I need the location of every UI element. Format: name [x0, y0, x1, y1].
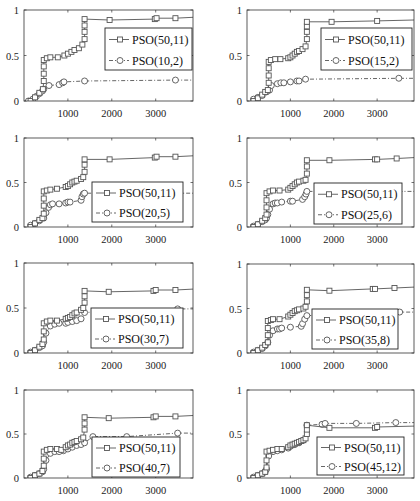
square-marker-icon [41, 196, 46, 201]
chart-panel-1: 10002000300000.51PSO(50,11)PSO(10,2) [6, 5, 193, 119]
legend-label: PSO(15,2) [348, 54, 399, 68]
y-tick-label: 0.5 [229, 304, 242, 315]
square-marker-icon [273, 57, 278, 62]
square-marker-icon [330, 445, 335, 450]
y-tick-label: 1 [237, 133, 242, 144]
square-marker-icon [304, 293, 309, 298]
circle-marker-icon [61, 79, 67, 85]
square-marker-icon [304, 423, 309, 428]
square-marker-icon [41, 211, 46, 216]
chart-panel-4: 10002000300000.51PSO(50,11)PSO(25,6) [229, 133, 414, 245]
chart-panel-5: 10002000300000.51PSO(50,11)PSO(30,7) [6, 258, 193, 371]
square-marker-icon [41, 203, 46, 208]
square-marker-icon [40, 87, 45, 92]
square-marker-icon [277, 188, 282, 193]
x-tick-label: 1000 [57, 108, 78, 119]
legend-label: PSO(40,7) [119, 461, 170, 475]
square-marker-icon [372, 286, 377, 291]
square-marker-icon [375, 18, 380, 23]
x-tick-label: 1000 [57, 485, 78, 496]
x-tick-label: 3000 [367, 360, 388, 371]
square-marker-icon [41, 78, 46, 83]
y-tick-label: 0 [14, 348, 19, 359]
y-tick-label: 1 [14, 258, 19, 269]
legend: PSO(50,11)PSO(15,2) [321, 28, 412, 70]
x-tick-label: 3000 [145, 234, 166, 245]
circle-marker-icon [175, 430, 181, 436]
y-tick-label: 0 [14, 222, 19, 233]
legend-label: PSO(50,11) [118, 312, 175, 326]
square-marker-icon [154, 154, 159, 159]
square-marker-icon [107, 18, 112, 23]
y-tick-label: 1 [14, 133, 19, 144]
square-marker-icon [266, 66, 271, 71]
circle-marker-icon [396, 75, 402, 81]
square-marker-icon [106, 289, 111, 294]
circle-marker-icon [103, 336, 109, 342]
y-tick-label: 0.5 [6, 303, 19, 314]
square-marker-icon [82, 300, 87, 305]
legend: PSO(50,11)PSO(35,8) [312, 309, 398, 349]
square-marker-icon [266, 80, 271, 85]
y-tick-label: 1 [237, 259, 242, 270]
x-tick-label: 3000 [367, 234, 388, 245]
square-marker-icon [304, 164, 309, 169]
circle-marker-icon [324, 337, 330, 343]
square-marker-icon [266, 73, 271, 78]
x-tick-label: 2000 [323, 360, 344, 371]
legend-label: PSO(50,11) [119, 441, 176, 455]
chart-panel-8: 10002000300000.51PSO(50,11)PSO(45,12) [229, 385, 414, 496]
square-marker-icon [265, 326, 270, 331]
y-tick-label: 1 [14, 5, 19, 16]
legend-label: PSO(10,2) [132, 54, 183, 68]
y-tick-label: 0.5 [6, 51, 19, 62]
square-marker-icon [41, 337, 46, 342]
square-marker-icon [271, 317, 276, 322]
square-marker-icon [334, 37, 339, 42]
circle-marker-icon [78, 316, 84, 322]
square-marker-icon [104, 317, 109, 322]
square-marker-icon [82, 169, 87, 174]
x-tick-label: 3000 [367, 485, 388, 496]
x-tick-label: 1000 [280, 108, 301, 119]
circle-marker-icon [333, 58, 339, 64]
square-marker-icon [82, 29, 87, 34]
square-marker-icon [304, 287, 309, 292]
square-marker-icon [279, 446, 284, 451]
figure-page: 10002000300000.51PSO(50,11)PSO(10,2)1000… [0, 0, 420, 501]
circle-marker-icon [326, 212, 332, 218]
square-marker-icon [82, 415, 87, 420]
x-tick-label: 3000 [145, 485, 166, 496]
square-marker-icon [375, 157, 380, 162]
square-marker-icon [82, 427, 87, 432]
square-marker-icon [304, 37, 309, 42]
circle-marker-icon [104, 210, 110, 216]
circle-marker-icon [329, 464, 335, 470]
square-marker-icon [82, 17, 87, 22]
square-marker-icon [304, 19, 309, 24]
legend: PSO(50,11)PSO(30,7) [91, 308, 183, 348]
square-marker-icon [105, 446, 110, 451]
square-marker-icon [278, 57, 283, 62]
square-marker-icon [173, 288, 178, 293]
x-tick-label: 3000 [145, 108, 166, 119]
square-marker-icon [81, 306, 86, 311]
y-tick-label: 0.5 [229, 51, 242, 62]
square-marker-icon [264, 458, 269, 463]
square-marker-icon [82, 37, 87, 42]
square-marker-icon [304, 29, 309, 34]
square-marker-icon [271, 188, 276, 193]
y-tick-label: 0 [237, 96, 242, 107]
legend-label: PSO(45,12) [344, 460, 401, 474]
chart-panel-2: 10002000300000.51PSO(50,11)PSO(15,2) [229, 5, 414, 119]
square-marker-icon [41, 329, 46, 334]
square-marker-icon [82, 288, 87, 293]
square-marker-icon [80, 42, 85, 47]
square-marker-icon [327, 192, 332, 197]
square-marker-icon [54, 318, 59, 323]
square-marker-icon [327, 288, 332, 293]
circle-marker-icon [104, 465, 110, 471]
y-tick-label: 0 [14, 473, 19, 484]
y-tick-label: 0 [237, 222, 242, 233]
square-marker-icon [264, 465, 269, 470]
